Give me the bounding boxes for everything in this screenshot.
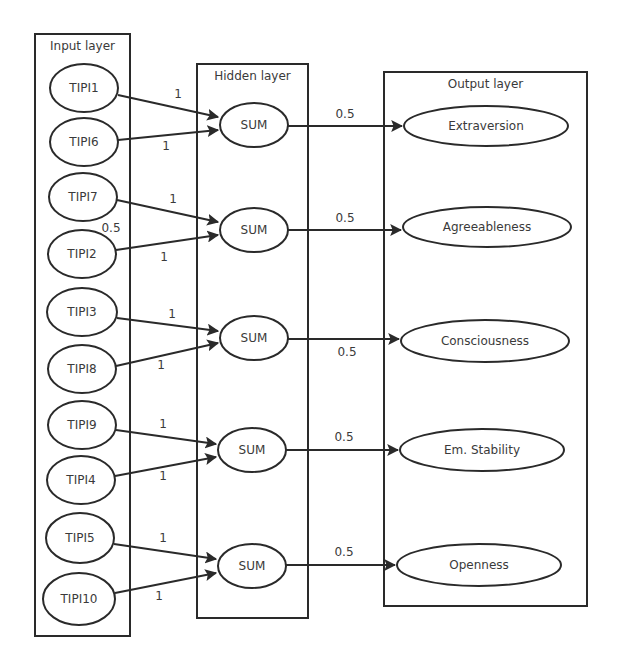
hidden-sum-node: SUM (220, 103, 288, 147)
output-node-label: Openness (449, 558, 509, 572)
input-to-hidden-edge-weight: 1 (174, 87, 182, 101)
neural-network-diagram: Input layer Hidden layer Output layer TI… (0, 0, 619, 666)
hidden-sum-node-label: SUM (241, 331, 268, 345)
input-to-hidden-edge (116, 235, 218, 250)
input-node-label: TIPI4 (65, 473, 95, 487)
hidden-sum-node-label: SUM (239, 443, 266, 457)
hidden-layer-title: Hidden layer (214, 69, 291, 83)
input-to-hidden-edge-weight: 1 (159, 417, 167, 431)
input-node: TIPI7 (49, 173, 117, 221)
output-node: Em. Stability (400, 429, 564, 471)
input-to-hidden-edge (116, 343, 218, 366)
input-node-label: TIPI7 (67, 190, 97, 204)
input-node-label: TIPI10 (60, 592, 98, 606)
input-node: TIPI6 (50, 118, 118, 166)
input-node-label: TIPI9 (66, 418, 96, 432)
input-to-hidden-edge-weight: 1 (162, 139, 170, 153)
hidden-to-output-edge-weight: 0.5 (335, 107, 354, 121)
hidden-sum-node: SUM (220, 208, 288, 252)
input-node: TIPI5 (46, 513, 114, 563)
input-node: TIPI3 (47, 288, 117, 336)
input-node-label: TIPI2 (66, 247, 96, 261)
input-to-hidden-edge-weight: 1 (157, 358, 165, 372)
hidden-sum-node-label: SUM (239, 559, 266, 573)
hidden-sum-node: SUM (218, 544, 286, 588)
output-layer-title: Output layer (448, 77, 524, 91)
hidden-sum-node-label: SUM (241, 223, 268, 237)
input-node-label: TIPI5 (64, 531, 94, 545)
input-to-hidden-edge-weight: 1 (159, 531, 167, 545)
input-to-hidden-edge-weight: 1 (160, 250, 168, 264)
output-node: Extraversion (404, 106, 568, 146)
input-node-label: TIPI8 (66, 362, 96, 376)
hidden-to-output-edge-weight: 0.5 (337, 345, 356, 359)
hidden-sum-node: SUM (220, 316, 288, 360)
hidden-to-output-edge-weight: 0.5 (334, 545, 353, 559)
input-node: TIPI8 (48, 345, 116, 393)
input-to-hidden-edge (117, 200, 218, 222)
hidden-to-output-edge-weight: 0.5 (335, 211, 354, 225)
output-node-label: Extraversion (448, 119, 524, 133)
output-node: Openness (397, 544, 561, 586)
input-node: TIPI2 (48, 230, 116, 278)
output-node-label: Agreeableness (443, 220, 531, 234)
input-to-hidden-edge-weight: 1 (159, 469, 167, 483)
input-to-hidden-edge-weight: 1 (155, 589, 163, 603)
output-node: Consciousness (401, 320, 569, 362)
input-to-hidden-edge-weight: 1 (169, 192, 177, 206)
input-to-hidden-edge (118, 95, 218, 117)
input-to-hidden-edge-weight: 1 (168, 307, 176, 321)
input-node-label: TIPI6 (68, 135, 98, 149)
input-node-label: TIPI1 (68, 81, 98, 95)
input-layer-title: Input layer (50, 39, 115, 53)
input-node: TIPI4 (47, 456, 115, 504)
input-node: TIPI10 (43, 573, 115, 625)
input-node-label: TIPI3 (66, 305, 96, 319)
output-node: Agreeableness (403, 207, 571, 247)
input-node: TIPI9 (48, 401, 116, 449)
output-node-label: Consciousness (441, 334, 529, 348)
hidden-sum-node-label: SUM (241, 118, 268, 132)
hidden-to-output-edge-weight: 0.5 (334, 430, 353, 444)
input-node: TIPI1 (50, 64, 118, 112)
output-node-label: Em. Stability (444, 443, 520, 457)
extra-weight-label: 0.5 (101, 221, 120, 235)
hidden-sum-node: SUM (218, 428, 286, 472)
